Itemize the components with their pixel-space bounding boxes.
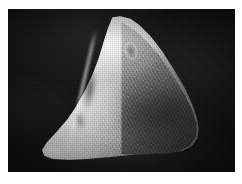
photo-vignette [8,9,235,172]
page-margin-left [0,0,8,184]
page-margin-right [235,0,242,184]
page [0,0,242,184]
page-margin-bottom [0,172,242,184]
photograph [8,9,235,172]
page-margin-top [0,0,242,9]
